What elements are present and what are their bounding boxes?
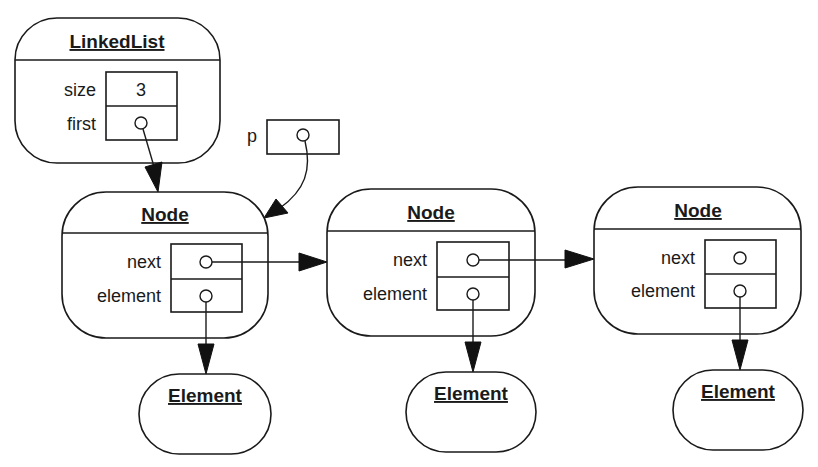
arrowhead-icon: [145, 162, 162, 192]
node-title: Node: [407, 202, 455, 223]
arrowhead-icon: [732, 340, 748, 370]
next-label: next: [393, 250, 427, 270]
node-3: Node next element: [594, 187, 801, 334]
element-label: element: [97, 286, 161, 306]
element-2: Element: [406, 372, 536, 452]
linked-list-diagram: LinkedList size first 3 p Node next elem…: [0, 0, 818, 467]
arrowhead-icon: [465, 342, 481, 372]
linkedlist-object: LinkedList size first 3: [15, 18, 220, 163]
element-1: Element: [139, 374, 271, 454]
next-label: next: [661, 248, 695, 268]
element-pointer-icon: [467, 288, 479, 300]
node-1: Node next element: [62, 192, 268, 338]
next-null-pointer-icon: [734, 252, 746, 264]
element-title: Element: [701, 381, 776, 402]
element-title: Element: [434, 383, 509, 404]
element-pointer-icon: [200, 290, 212, 302]
size-label: size: [64, 80, 96, 100]
first-pointer-icon: [135, 117, 147, 129]
node-title: Node: [674, 200, 722, 221]
node-title: Node: [141, 204, 189, 225]
first-label: first: [67, 114, 96, 134]
element-label: element: [631, 281, 695, 301]
element-3: Element: [673, 370, 803, 450]
arrowhead-icon: [198, 344, 214, 374]
arrowhead-icon: [264, 199, 288, 218]
next-pointer-icon: [467, 254, 479, 266]
next-label: next: [127, 252, 161, 272]
element-pointer-icon: [734, 285, 746, 297]
arrowhead-icon: [565, 250, 594, 268]
element-title: Element: [168, 385, 243, 406]
node-2: Node next element: [327, 189, 535, 336]
linkedlist-title: LinkedList: [69, 31, 165, 52]
arrowhead-icon: [299, 253, 327, 271]
element-label: element: [363, 284, 427, 304]
size-value: 3: [136, 80, 146, 100]
p-label: p: [247, 126, 257, 146]
p-variable: p: [247, 120, 339, 154]
next-pointer-icon: [200, 256, 212, 268]
p-pointer-icon: [297, 129, 309, 141]
